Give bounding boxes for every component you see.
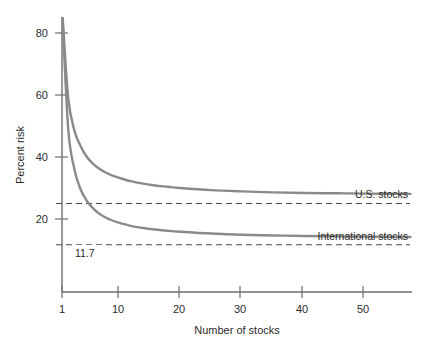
risk-diversification-chart: 80 60 40 20 1 10 20 30 40 50 Number of s… [0, 0, 422, 344]
x-tick-label-10: 10 [112, 303, 124, 315]
x-tick-label-30: 30 [234, 303, 246, 315]
y-axis-title: Percent risk [14, 125, 26, 184]
x-axis-title: Number of stocks [194, 324, 280, 336]
chart-figure: 80 60 40 20 1 10 20 30 40 50 Number of s… [0, 0, 422, 344]
x-tick-label-1: 1 [59, 303, 65, 315]
y-tick-label-20: 20 [36, 213, 48, 225]
y-tick-label-80: 80 [36, 27, 48, 39]
annotation-label-11-7: 11.7 [75, 247, 95, 259]
y-tick-label-60: 60 [36, 89, 48, 101]
x-tick-label-50: 50 [357, 303, 369, 315]
series-label-international-stocks: International stocks [318, 230, 408, 242]
series-label-us-stocks: U.S. stocks [355, 188, 408, 200]
x-tick-label-20: 20 [173, 303, 185, 315]
y-tick-label-40: 40 [36, 151, 48, 163]
x-tick-label-40: 40 [296, 303, 308, 315]
